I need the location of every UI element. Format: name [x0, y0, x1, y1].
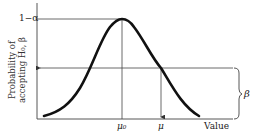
y-axis-label: Probability of accepting H₀, β [7, 37, 27, 103]
oc-curve [44, 19, 199, 116]
beta-brace [234, 68, 242, 119]
y-tick-one-minus-alpha: 1−α [19, 13, 38, 23]
x-tick-mu0: μ₀ [117, 121, 126, 131]
brace-beta-label: β [244, 88, 250, 99]
y-axis-label-line1: Probability of [7, 37, 17, 103]
x-tick-mu: μ [158, 121, 164, 131]
x-axis-label: Value [204, 121, 229, 131]
oc-curve-diagram [0, 0, 259, 139]
y-axis-label-line2: accepting H₀, β [17, 37, 27, 103]
